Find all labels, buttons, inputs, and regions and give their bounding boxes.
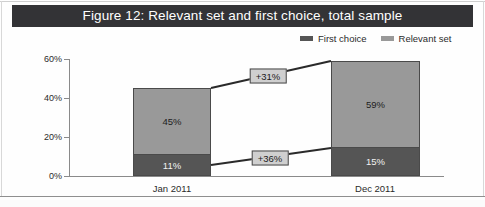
x-axis-line	[69, 176, 444, 177]
y-tick-label-60: 60%	[24, 54, 62, 64]
figure-container: Figure 12: Relevant set and first choice…	[0, 0, 485, 207]
plot-area: 0% 20% 40% 60% 45% 11% 59% 15%	[0, 0, 485, 207]
y-tick-mark-20	[64, 137, 69, 138]
bar-jan2011-first-choice[interactable]: 11%	[133, 154, 211, 176]
bar-dec2011-relevant-set[interactable]: 59%	[331, 61, 420, 148]
x-tick-label-jan2011: Jan 2011	[153, 183, 191, 194]
x-tick-label-dec2011: Dec 2011	[355, 183, 395, 194]
y-tick-mark-60	[64, 59, 69, 60]
y-tick-label-20: 20%	[24, 132, 62, 142]
y-tick-wrap-60: 60%	[20, 59, 62, 60]
callout-first-choice-growth[interactable]: +36%	[252, 151, 289, 166]
y-tick-label-40: 40%	[24, 93, 62, 103]
bar-label-jan2011-first-choice: 11%	[163, 160, 181, 171]
bar-dec2011-first-choice[interactable]: 15%	[331, 147, 420, 176]
callout-relevant-set-growth[interactable]: +31%	[250, 69, 287, 84]
y-tick-mark-0	[64, 176, 69, 177]
y-tick-mark-40	[64, 98, 69, 99]
y-axis-line	[69, 59, 70, 177]
bar-label-dec2011-relevant-set: 59%	[366, 99, 385, 110]
y-tick-wrap-40: 40%	[20, 98, 62, 99]
bar-jan2011-relevant-set[interactable]: 45%	[133, 88, 211, 155]
y-tick-wrap-20: 20%	[20, 137, 62, 138]
bar-label-jan2011-relevant-set: 45%	[162, 116, 181, 127]
y-tick-wrap-0: 0%	[20, 176, 62, 177]
y-tick-label-0: 0%	[24, 171, 62, 181]
bar-label-dec2011-first-choice: 15%	[366, 156, 385, 167]
